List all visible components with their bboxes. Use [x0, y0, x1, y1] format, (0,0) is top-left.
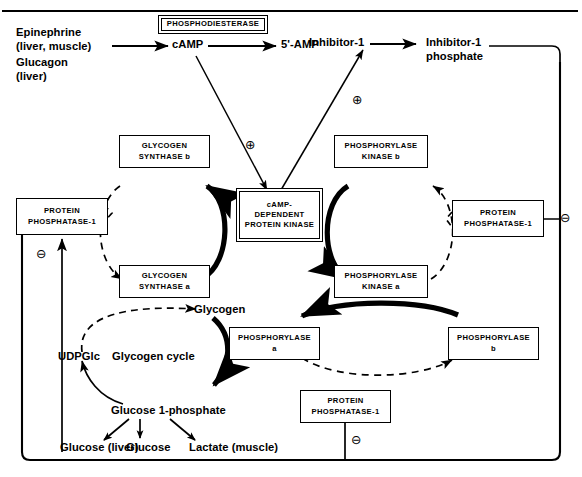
- plus-circle-icon: ⊕: [245, 139, 255, 152]
- glucagon-tissue-label: (liver): [16, 70, 47, 83]
- phosphorylase-kinase-a-box: PHOSPHORYLASE KINASE a: [334, 265, 428, 298]
- phosphorylase-kinase-b-box: PHOSPHORYLASE KINASE b: [334, 135, 428, 168]
- minus-circle-icon: ⊖: [351, 434, 361, 447]
- camp-dependent-protein-kinase-box: cAMP- DEPENDENT PROTEIN KINASE: [236, 188, 323, 242]
- glycogen-synthase-b-line2: SYNTHASE b: [139, 152, 191, 161]
- epinephrine-label: Epinephrine: [16, 26, 81, 39]
- phosphorylase-a-box: PHOSPHORYLASE a: [229, 327, 320, 360]
- phosphorylase-b-box: PHOSPHORYLASE b: [448, 327, 539, 360]
- inhibitor-phosphate-to-rail: [489, 46, 560, 70]
- glucose-label: Glucose: [126, 441, 171, 454]
- glycogen-synthase-a-line1: GLYCOGEN: [142, 271, 188, 280]
- protein-phosphatase-1-line1: PROTEIN: [480, 208, 516, 217]
- phosphorylase-kinase-b-line2: KINASE b: [362, 152, 400, 161]
- protein-phosphatase-1-box-bottom: PROTEIN PHOSPHATASE-1: [300, 390, 391, 423]
- minus-circle-icon: ⊖: [36, 248, 46, 261]
- glucose1p-fanout-arrows: [104, 419, 195, 440]
- protein-phosphatase-1-line1: PROTEIN: [44, 206, 80, 215]
- inhibitor-1-phosphate-label-line1: Inhibitor-1: [426, 36, 481, 49]
- glucose-1-phosphate-label: Glucose 1-phosphate: [111, 404, 226, 417]
- pka-label-line2: DEPENDENT: [255, 210, 305, 219]
- plus-circle-icon: ⊕: [352, 94, 362, 107]
- phosphorylase-kinase-b-line1: PHOSPHORYLASE: [344, 141, 417, 150]
- phosphorylase-a-line2: a: [272, 344, 277, 353]
- phosphorylase-kinase-a-to-b-arrow: [431, 186, 453, 279]
- phosphorylase-a-to-b-arrow: [302, 358, 452, 375]
- camp-activates-pka-arrow: [196, 56, 267, 190]
- lactate-muscle-label: Lactate (muscle): [189, 441, 278, 454]
- glycogen-to-glucose1p-arrow: [213, 318, 228, 385]
- phosphorylase-a-line1: PHOSPHORYLASE: [238, 333, 311, 342]
- protein-phosphatase-1-line2: PHOSPHATASE-1: [312, 407, 380, 416]
- phosphorylase-b-line1: PHOSPHORYLASE: [457, 333, 530, 342]
- glucagon-label: Glucagon: [16, 56, 68, 69]
- phosphodiesterase-label: PHOSPHODIESTERASE: [165, 19, 261, 29]
- inhibitor-1-label: Inhibitor-1: [309, 36, 364, 49]
- glucose1p-to-udpglc-arrow: [82, 361, 123, 404]
- pka-label-line3: PROTEIN KINASE: [245, 220, 314, 229]
- camp-label: cAMP: [172, 38, 203, 51]
- protein-phosphatase-1-box-left: PROTEIN PHOSPHATASE-1: [16, 198, 108, 235]
- phosphorylase-kinase-a-line1: PHOSPHORYLASE: [344, 271, 417, 280]
- phosphorylase-b-to-a-arrow: [302, 303, 458, 316]
- protein-phosphatase-1-line2: PHOSPHATASE-1: [28, 217, 96, 226]
- minus-circle-icon: ⊖: [560, 212, 570, 225]
- glycogen-synthase-a-box: GLYCOGEN SYNTHASE a: [119, 265, 210, 298]
- glycogen-synthase-b-line1: GLYCOGEN: [142, 141, 188, 150]
- udpglc-label: UDPGlc: [58, 350, 100, 363]
- protein-phosphatase-1-line2: PHOSPHATASE-1: [464, 219, 532, 228]
- glycogen-synthase-b-box: GLYCOGEN SYNTHASE b: [119, 135, 210, 168]
- protein-phosphatase-1-line1: PROTEIN: [327, 396, 363, 405]
- inhibitor-1-phosphate-label-line2: phosphate: [426, 50, 483, 63]
- epinephrine-tissue-label: (liver, muscle): [16, 40, 91, 53]
- phosphorylase-b-line2: b: [491, 344, 496, 353]
- glycogen-synthase-a-line2: SYNTHASE a: [139, 282, 190, 291]
- diagram-canvas: Epinephrine (liver, muscle) Glucagon (li…: [0, 0, 582, 477]
- pka-label-line1: cAMP-: [267, 200, 292, 209]
- phosphodiesterase-box: PHOSPHODIESTERASE: [158, 15, 268, 34]
- glycogen-cycle-label: Glycogen cycle: [112, 350, 195, 363]
- phosphorylase-kinase-a-line2: KINASE a: [362, 282, 400, 291]
- pka-activates-inhibitor-arrow: [281, 50, 363, 190]
- udpglc-to-glycogen-arrow: [82, 308, 196, 352]
- glycogen-label: Glycogen: [194, 303, 245, 316]
- protein-phosphatase-1-box-right: PROTEIN PHOSPHATASE-1: [452, 200, 544, 237]
